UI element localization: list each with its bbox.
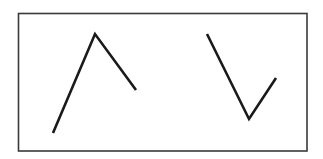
diagram-canvas [0,0,323,159]
